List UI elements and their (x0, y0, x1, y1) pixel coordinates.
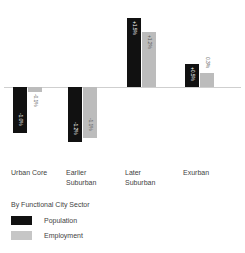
bar-value-label: 0.3% (205, 57, 210, 68)
bar-employment[interactable] (200, 73, 214, 87)
category-label-line: Earlier (66, 168, 124, 178)
legend-swatch-employment (11, 231, 32, 240)
bar-value-label: -1.2% (73, 122, 78, 135)
bar-value-label: -1.1% (88, 118, 93, 131)
category-label-earlier-suburban: EarlierSuburban (66, 168, 124, 188)
legend-label-employment: Employment (44, 231, 83, 240)
bar-employment[interactable] (28, 87, 42, 92)
legend-item-employment[interactable]: Employment (11, 231, 90, 240)
bar-value-label: +1.2% (147, 35, 152, 49)
legend-swatch-population (11, 216, 32, 225)
category-label-urban-core: Urban Core (11, 168, 69, 178)
category-label-line: Later (125, 168, 183, 178)
legend-item-population[interactable]: Population (11, 216, 90, 225)
bar-value-label: +1.5% (132, 21, 137, 35)
category-label-line: Urban Core (11, 168, 69, 178)
plot-area: -1.0%-0.1%-1.2%-1.1%+1.5%+1.2%+0.5%0.3% (0, 14, 245, 162)
legend-label-population: Population (44, 216, 77, 225)
bar-chart: -1.0%-0.1%-1.2%-1.1%+1.5%+1.2%+0.5%0.3% … (0, 0, 245, 253)
category-label-later-suburban: LaterSuburban (125, 168, 183, 188)
category-label-line: Suburban (125, 178, 183, 188)
chart-legend: By Functional City Sector Population Emp… (11, 200, 90, 246)
category-label-exurban: Exurban (183, 168, 241, 178)
bar-value-label: -0.1% (33, 94, 38, 107)
bar-population[interactable] (13, 87, 27, 133)
category-label-line: Exurban (183, 168, 241, 178)
category-label-line: Suburban (66, 178, 124, 188)
category-axis-labels: Urban CoreEarlierSuburbanLaterSuburbanEx… (0, 168, 245, 196)
bar-value-label: +0.5% (190, 67, 195, 81)
bar-value-label: -1.0% (18, 113, 23, 126)
legend-title: By Functional City Sector (11, 200, 90, 209)
